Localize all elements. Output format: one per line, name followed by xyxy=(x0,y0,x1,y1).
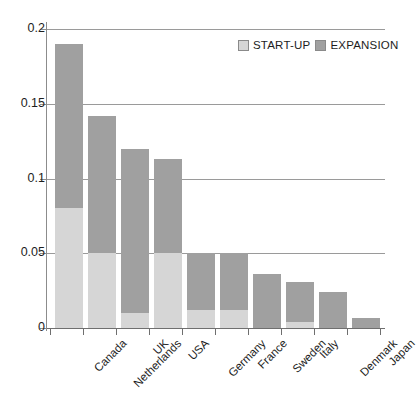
x-tick-label: USA xyxy=(186,337,211,362)
bar-stack[interactable] xyxy=(121,29,149,328)
bar-segment-startup[interactable] xyxy=(187,310,215,328)
bar-segment-expansion[interactable] xyxy=(286,282,314,322)
bar-segment-startup[interactable] xyxy=(286,322,314,328)
y-tick-label: 0.15 xyxy=(21,96,45,110)
bar-stack[interactable] xyxy=(319,29,347,328)
bar-segment-expansion[interactable] xyxy=(187,253,215,310)
bar-stack[interactable] xyxy=(154,29,182,328)
bar-stack[interactable] xyxy=(253,29,281,328)
x-tick-mark xyxy=(347,329,348,335)
bar-segment-expansion[interactable] xyxy=(88,116,116,254)
x-tick-mark xyxy=(281,329,282,335)
bar-segment-startup[interactable] xyxy=(55,208,83,328)
chart-legend: START-UP EXPANSION xyxy=(238,39,398,51)
legend-item-startup: START-UP xyxy=(238,39,310,51)
x-tick-mark xyxy=(380,329,381,335)
x-tick-mark xyxy=(314,329,315,335)
bar-stack[interactable] xyxy=(352,29,380,328)
bar-stack[interactable] xyxy=(187,29,215,328)
bar-segment-startup[interactable] xyxy=(121,313,149,328)
bar-segment-startup[interactable] xyxy=(154,253,182,328)
bar-segment-expansion[interactable] xyxy=(121,149,149,313)
legend-item-expansion: EXPANSION xyxy=(315,39,398,51)
x-tick-mark xyxy=(182,329,183,335)
y-tick-label: 0.05 xyxy=(21,245,45,259)
bar-segment-startup[interactable] xyxy=(220,310,248,328)
bar-segment-expansion[interactable] xyxy=(55,44,83,208)
x-tick-mark xyxy=(149,329,150,335)
x-tick-label: Canada xyxy=(92,337,129,374)
bar-segment-expansion[interactable] xyxy=(154,159,182,253)
x-tick-mark xyxy=(248,329,249,335)
bar-stack[interactable] xyxy=(286,29,314,328)
y-tick-label: 0 xyxy=(38,320,45,334)
bar-stack[interactable] xyxy=(88,29,116,328)
bar-stack[interactable] xyxy=(220,29,248,328)
bar-segment-startup[interactable] xyxy=(88,253,116,328)
x-tick-mark xyxy=(116,329,117,335)
bar-segment-expansion[interactable] xyxy=(220,253,248,310)
legend-swatch-expansion xyxy=(315,40,326,51)
y-tick-label: 0.1 xyxy=(28,171,45,185)
plot-area xyxy=(47,29,385,328)
legend-label-expansion: EXPANSION xyxy=(330,39,398,51)
bar-segment-expansion[interactable] xyxy=(319,292,347,328)
x-tick-mark xyxy=(50,329,51,335)
bar-segment-expansion[interactable] xyxy=(253,274,281,328)
x-tick-mark xyxy=(83,329,84,335)
x-tick-mark xyxy=(215,329,216,335)
legend-label-startup: START-UP xyxy=(253,39,310,51)
x-axis-line xyxy=(40,328,385,329)
bar-stack[interactable] xyxy=(55,29,83,328)
legend-swatch-startup xyxy=(238,40,249,51)
y-tick-label: 0.2 xyxy=(28,21,45,35)
bar-segment-expansion[interactable] xyxy=(352,318,380,328)
